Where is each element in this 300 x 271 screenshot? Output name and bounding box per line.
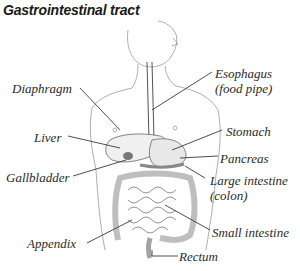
label-pancreas: Pancreas: [220, 151, 269, 166]
large-intestine-drawing: [115, 174, 194, 241]
label-liver: Liver: [34, 130, 61, 145]
small-intestine-drawing: [128, 187, 176, 233]
gallbladder-drawing: [123, 152, 133, 160]
label-rectum: Rectum: [179, 249, 218, 264]
rectum-drawing: [149, 238, 151, 258]
label-appendix: Appendix: [27, 236, 76, 251]
label-esophagus-note: (food pipe): [215, 81, 272, 96]
esophagus-drawing: [147, 62, 154, 140]
label-small-intestine: Small intestine: [212, 225, 289, 240]
stomach-drawing: [149, 139, 186, 168]
label-large-intestine: Large intestine: [210, 173, 288, 188]
label-stomach: Stomach: [226, 124, 271, 139]
label-diaphragm: Diaphragm: [12, 81, 72, 96]
label-esophagus: Esophagus: [215, 66, 272, 81]
leader-lines: [68, 72, 222, 256]
label-large-intestine-note: (colon): [210, 188, 248, 203]
label-gallbladder: Gallbladder: [6, 170, 70, 185]
